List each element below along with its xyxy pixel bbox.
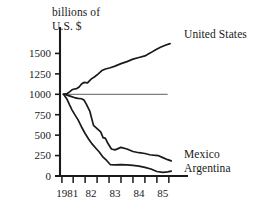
x-tick-label: 1981 bbox=[56, 187, 78, 199]
x-tick-label: 83 bbox=[110, 187, 122, 199]
y-tick-label: 250 bbox=[35, 149, 52, 161]
series-label-united-states: United States bbox=[184, 28, 247, 42]
y-tick-label: 1500 bbox=[29, 47, 52, 59]
series-label-mexico: Mexico bbox=[184, 148, 220, 162]
series-label-argentina: Argentina bbox=[184, 162, 231, 176]
series-line-argentina bbox=[64, 94, 172, 172]
series-line-mexico bbox=[64, 94, 172, 161]
y-tick-label: 500 bbox=[35, 129, 52, 141]
y-tick-label: 1250 bbox=[29, 68, 52, 80]
x-tick-label: 85 bbox=[157, 187, 169, 199]
y-tick-label: 1000 bbox=[29, 88, 52, 100]
y-tick-label: 0 bbox=[46, 170, 52, 182]
y-tick-label: 750 bbox=[35, 109, 52, 121]
x-tick-label: 84 bbox=[133, 187, 145, 199]
series-line-united-states bbox=[64, 44, 170, 95]
x-tick-label: 82 bbox=[86, 187, 97, 199]
chart-container: billions ofU.S. $ 0250500750100012501500… bbox=[0, 0, 255, 212]
